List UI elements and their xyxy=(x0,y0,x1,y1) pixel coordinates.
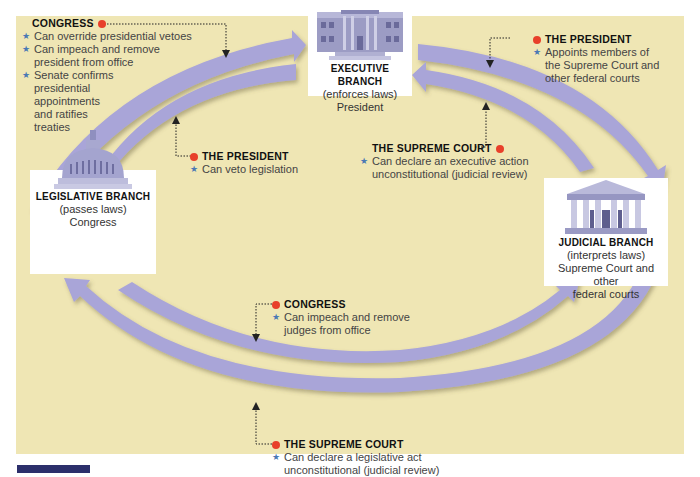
check-item: Can declare a legislative act xyxy=(284,451,422,464)
red-dot-icon xyxy=(190,153,198,161)
check-court-on-congress: THE SUPREME COURT ★Can declare a legisla… xyxy=(272,438,452,477)
check-item: Senate confirms xyxy=(34,69,113,82)
star-bullet-icon: ★ xyxy=(22,30,31,43)
judicial-branch-role: (interprets laws) xyxy=(544,249,668,262)
judicial-branch-title: JUDICIAL BRANCH xyxy=(544,236,668,249)
figure-label-bar xyxy=(17,465,90,473)
check-item-cont: presidential xyxy=(34,82,90,95)
check-court-on-president: THE SUPREME COURT ★Can declare an execut… xyxy=(360,142,540,181)
check-item: Can veto legislation xyxy=(202,163,298,176)
check-president-on-courts: THE PRESIDENT ★Appoints members of the S… xyxy=(545,33,685,85)
check-item-cont: and ratifies xyxy=(34,108,88,121)
check-item-cont: other federal courts xyxy=(545,72,640,85)
executive-branch-title: EXECUTIVE BRANCH xyxy=(308,62,412,88)
check-item-cont: treaties xyxy=(34,121,70,134)
check-item: Can override presidential vetoes xyxy=(34,30,192,43)
judicial-branch-body-1: Supreme Court and other xyxy=(544,262,668,288)
star-bullet-icon: ★ xyxy=(533,46,542,59)
check-item: Appoints members of xyxy=(545,46,649,59)
check-heading: CONGRESS xyxy=(284,298,346,311)
red-dot-icon xyxy=(533,36,541,44)
check-congress-on-president: CONGRESS ★Can override presidential veto… xyxy=(22,17,192,134)
check-item: Can declare an executive action xyxy=(372,155,529,168)
check-item-cont: unconstitutional (judicial review) xyxy=(284,464,439,477)
legislative-branch-box: LEGISLATIVE BRANCH (passes laws) Congres… xyxy=(30,170,156,274)
supreme-court-icon xyxy=(563,178,649,236)
check-heading: THE SUPREME COURT xyxy=(372,142,492,155)
check-heading: THE PRESIDENT xyxy=(545,33,632,46)
check-item-cont: president from office xyxy=(34,56,133,69)
check-item: Can impeach and remove xyxy=(34,43,160,56)
check-item-cont: appointments xyxy=(34,95,100,108)
check-heading: THE SUPREME COURT xyxy=(284,438,404,451)
legislative-branch-body: Congress xyxy=(30,216,156,229)
executive-branch-body: President xyxy=(308,101,412,114)
executive-branch-role: (enforces laws) xyxy=(308,88,412,101)
check-congress-on-courts: CONGRESS ★Can impeach and remove judges … xyxy=(272,298,422,337)
check-item-cont: unconstitutional (judicial review) xyxy=(372,168,527,181)
white-house-icon xyxy=(315,8,405,62)
red-dot-icon xyxy=(98,20,106,28)
executive-branch-box: EXECUTIVE BRANCH (enforces laws) Preside… xyxy=(308,8,412,96)
legislative-branch-title: LEGISLATIVE BRANCH xyxy=(30,190,156,203)
star-bullet-icon: ★ xyxy=(360,155,369,168)
star-bullet-icon: ★ xyxy=(272,451,281,464)
star-bullet-icon: ★ xyxy=(272,311,281,324)
star-bullet-icon: ★ xyxy=(190,163,199,176)
judicial-branch-body-2: federal courts xyxy=(544,288,668,301)
check-item: Can impeach and remove xyxy=(284,311,410,324)
star-bullet-icon: ★ xyxy=(22,43,31,56)
judicial-branch-box: JUDICIAL BRANCH (interprets laws) Suprem… xyxy=(544,178,668,286)
red-dot-icon xyxy=(272,441,280,449)
check-item-cont: the Supreme Court and xyxy=(545,59,659,72)
check-heading: CONGRESS xyxy=(32,17,94,30)
star-bullet-icon: ★ xyxy=(22,69,31,82)
red-dot-icon xyxy=(272,301,280,309)
capitol-dome-icon xyxy=(48,130,138,190)
red-dot-icon xyxy=(496,145,504,153)
check-item-cont: judges from office xyxy=(284,324,371,337)
check-president-on-congress: THE PRESIDENT ★Can veto legislation xyxy=(190,150,330,176)
legislative-branch-role: (passes laws) xyxy=(30,203,156,216)
check-heading: THE PRESIDENT xyxy=(202,150,289,163)
